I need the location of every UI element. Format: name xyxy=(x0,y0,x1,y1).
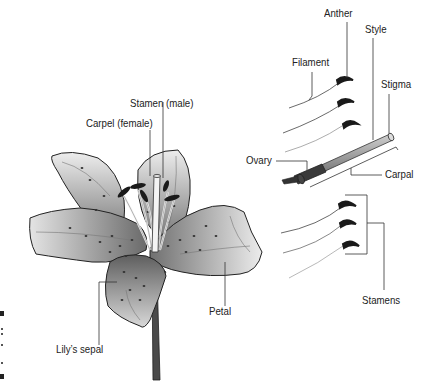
edge-mark xyxy=(1,328,3,330)
label-anther: Anther xyxy=(324,7,353,19)
lily-diagram: Stamen (male) Carpel (female) Petal Lily… xyxy=(0,0,429,384)
edge-mark xyxy=(0,311,4,316)
label-petal: Petal xyxy=(209,305,231,317)
edge-mark xyxy=(1,344,3,346)
lily-illustration xyxy=(0,0,429,384)
label-sepal: Lily’s sepal xyxy=(56,343,103,355)
label-filament: Filament xyxy=(292,56,329,68)
label-stamens: Stamens xyxy=(362,294,400,306)
edge-mark xyxy=(0,374,4,379)
edge-mark xyxy=(1,333,3,335)
label-carpal: Carpal xyxy=(385,168,414,180)
petal-left xyxy=(30,208,147,262)
edge-mark xyxy=(1,362,3,364)
label-ovary: Ovary xyxy=(246,154,272,166)
detail-carpel xyxy=(282,132,395,184)
label-style: Style xyxy=(365,23,387,35)
label-stigma: Stigma xyxy=(381,78,411,90)
label-carpel-female: Carpel (female) xyxy=(86,117,153,129)
detail-stamens-bottom xyxy=(281,201,359,278)
label-stamen-male: Stamen (male) xyxy=(130,97,193,109)
detail-stamens-top xyxy=(283,77,358,152)
